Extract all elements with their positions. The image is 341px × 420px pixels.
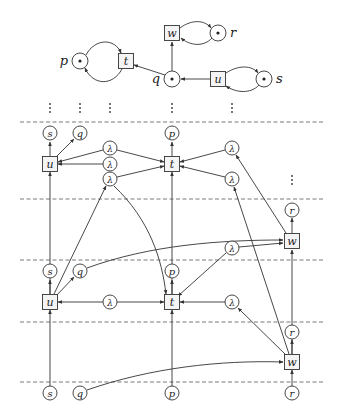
place-label: p — [169, 388, 176, 399]
unfold-place-lambda: λ — [103, 295, 117, 309]
unfold-place-r: r — [285, 386, 299, 400]
transition-label: u — [46, 296, 53, 309]
top-transition-w: w — [165, 26, 180, 41]
transition-label: w — [287, 356, 297, 369]
vertical-ellipsis-dot — [49, 111, 51, 113]
unfold-place-q: q — [73, 264, 87, 278]
vertical-ellipsis-dot — [291, 175, 293, 177]
unfold-place-p: p — [165, 264, 179, 278]
place-label: λ — [106, 175, 113, 185]
vertical-ellipsis-dot — [109, 111, 111, 113]
place-label: p — [169, 266, 176, 277]
vertical-ellipsis-dot — [231, 111, 233, 113]
place-label: s — [47, 266, 52, 277]
unfold-place-q: q — [73, 126, 87, 140]
unfold-place-lambda: λ — [103, 157, 117, 171]
top-place-s: s — [256, 71, 283, 87]
nodes: pqrstwusqpλλλλλrλsqpλλrsqprutwutw — [43, 25, 300, 400]
unfold-transition-t: t — [165, 295, 180, 310]
token-icon — [262, 77, 265, 80]
unfold-place-r: r — [285, 325, 299, 339]
top-transition-t: t — [119, 54, 134, 69]
unfold-place-lambda: λ — [225, 241, 239, 255]
transition-label: t — [124, 55, 129, 68]
unfold-transition-u: u — [43, 157, 58, 172]
place-label: q — [77, 266, 83, 277]
unfold-place-lambda: λ — [225, 141, 239, 155]
vertical-ellipsis-dot — [291, 179, 293, 181]
vertical-ellipsis-dot — [109, 103, 111, 105]
unfold-place-lambda: λ — [225, 172, 239, 186]
place-label: q — [77, 128, 83, 139]
place-label: q — [152, 71, 160, 86]
vertical-ellipsis-dot — [171, 111, 173, 113]
vertical-ellipsis-dot — [49, 103, 51, 105]
unfold-place-s: s — [43, 264, 57, 278]
unfold-place-s: s — [43, 386, 57, 400]
vertical-ellipsis-dot — [79, 111, 81, 113]
unfold-place-lambda: λ — [225, 295, 239, 309]
transition-label: u — [214, 73, 221, 86]
place-label: q — [77, 388, 83, 399]
transition-label: w — [167, 27, 177, 40]
place-label: s — [47, 128, 52, 139]
place-label: λ — [106, 298, 113, 308]
place-label: λ — [228, 144, 235, 154]
place-label: s — [47, 388, 52, 399]
unfold-transition-u: u — [43, 295, 58, 310]
vertical-ellipsis-dot — [79, 103, 81, 105]
top-place-q: q — [152, 71, 180, 87]
place-label: λ — [228, 244, 235, 254]
place-label: s — [276, 71, 283, 86]
vertical-ellipsis-dot — [231, 107, 233, 109]
place-label: λ — [106, 160, 113, 170]
unfold-transition-t: t — [165, 157, 180, 172]
unfold-place-s: s — [43, 126, 57, 140]
diagram-svg: pqrstwusqpλλλλλrλsqpλλrsqprutwutw — [0, 0, 341, 420]
place-label: λ — [228, 298, 235, 308]
place-label: r — [230, 25, 237, 40]
vertical-ellipsis-dot — [109, 107, 111, 109]
vertical-ellipsis-dot — [231, 103, 233, 105]
place-label: λ — [228, 175, 235, 185]
transition-label: u — [46, 158, 53, 171]
unfold-place-p: p — [165, 386, 179, 400]
transition-label: t — [170, 158, 175, 171]
place-label: p — [169, 128, 176, 139]
vertical-ellipsis-dot — [171, 103, 173, 105]
unfold-transition-w: w — [285, 234, 300, 249]
top-place-r: r — [210, 25, 237, 41]
top-place-p: p — [60, 53, 88, 69]
unfold-place-lambda: λ — [103, 141, 117, 155]
place-label: λ — [106, 144, 113, 154]
token-icon — [170, 77, 173, 80]
top-transition-u: u — [211, 72, 226, 87]
place-label: p — [60, 53, 69, 68]
token-icon — [216, 31, 219, 34]
unfold-place-r: r — [285, 203, 299, 217]
unfold-place-lambda: λ — [103, 172, 117, 186]
vertical-ellipsis-dot — [171, 107, 173, 109]
unfold-place-p: p — [165, 126, 179, 140]
vertical-ellipsis-dot — [49, 107, 51, 109]
token-icon — [78, 59, 81, 62]
petri-net-unfolding-diagram: pqrstwusqpλλλλλrλsqpλλrsqprutwutw — [0, 0, 341, 420]
unfold-place-q: q — [73, 386, 87, 400]
ellipsis-marks — [49, 103, 293, 185]
vertical-ellipsis-dot — [291, 183, 293, 185]
transition-label: w — [287, 235, 297, 248]
vertical-ellipsis-dot — [79, 107, 81, 109]
unfold-transition-w: w — [285, 355, 300, 370]
transition-label: t — [170, 296, 175, 309]
